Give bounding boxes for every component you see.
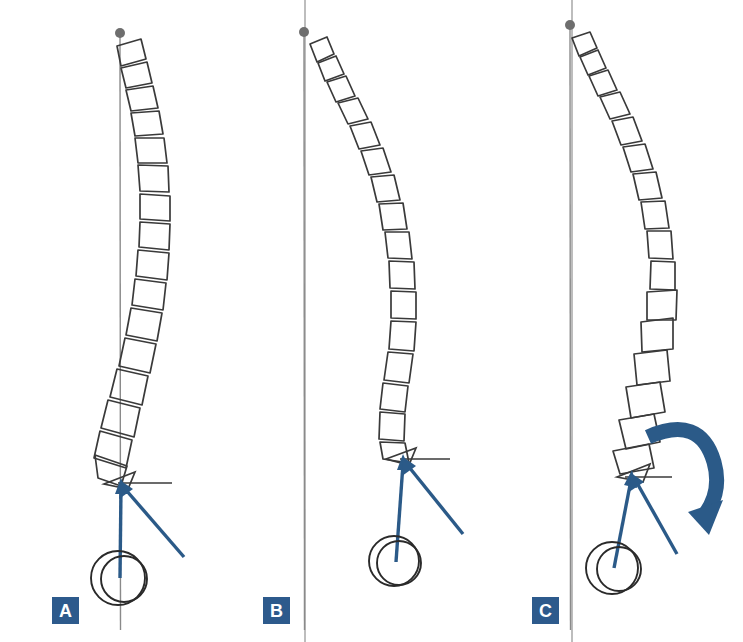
vertebra-a-8	[139, 222, 170, 250]
pelvic-incidence-arrow-a	[120, 488, 121, 578]
vertebra-a-7	[140, 194, 170, 221]
vertebra-c-4	[600, 92, 630, 119]
panel-label-b: B	[263, 597, 290, 624]
vertebra-b-13	[384, 352, 413, 383]
sacral-slope-arrow-a	[126, 490, 184, 557]
plumb-dot-c	[565, 20, 575, 30]
vertebra-a-2	[121, 62, 152, 88]
vertebra-b-12	[389, 321, 416, 351]
panel-a	[91, 28, 184, 630]
vertebra-c-11	[647, 290, 677, 320]
vertebra-b-9	[385, 232, 412, 259]
vertebra-a-13	[110, 369, 148, 405]
vertebra-a-15	[94, 431, 132, 468]
plumb-dot-b	[299, 27, 309, 37]
panel-c	[565, 20, 723, 630]
vertebra-a-5	[135, 138, 167, 163]
femoral-head-c	[586, 542, 641, 594]
vertebra-c-10	[650, 261, 675, 290]
vertebra-a-4	[131, 111, 163, 136]
vertebra-b-8	[379, 203, 407, 230]
panel-dividers	[305, 0, 572, 642]
panel-b	[299, 27, 463, 630]
femoral-head-a-inner	[101, 556, 147, 602]
vertebral-column-a	[94, 39, 170, 486]
plumb-dot-a	[115, 28, 125, 38]
vertebra-c-9	[647, 231, 673, 259]
plumb-line-b-stem	[304, 36, 305, 630]
vertebra-c-3	[589, 70, 617, 96]
femoral-head-b-inner	[377, 541, 421, 585]
vertebra-a-6	[138, 165, 169, 192]
sacral-slope-arrow-c	[637, 483, 677, 554]
figure-root: A B C	[0, 0, 743, 642]
vertebra-c-14	[626, 382, 665, 418]
vertebra-c-8	[641, 201, 669, 229]
vertebra-a-11	[126, 308, 162, 341]
vertebra-b-14	[380, 383, 408, 412]
pelvic-incidence-arrow-c	[614, 480, 631, 568]
vertebra-b-4	[338, 98, 368, 124]
vertebra-c-6	[623, 144, 653, 172]
vertebra-c-13	[634, 350, 670, 385]
measurement-arrows-c	[614, 470, 677, 568]
vertebra-a-9	[136, 250, 169, 280]
vertebra-b-5	[350, 122, 380, 149]
measurement-arrows-a	[115, 478, 184, 578]
vertebra-b-15	[379, 412, 405, 441]
femoral-head-c-inner	[597, 547, 641, 591]
vertebra-b-3	[327, 76, 355, 102]
vertebra-b-6	[361, 148, 391, 175]
vertebral-column-c	[572, 32, 677, 474]
vertebra-a-3	[126, 86, 158, 111]
panel-label-c: C	[532, 597, 559, 624]
vertebra-b-11	[391, 291, 416, 319]
measurement-arrows-b	[396, 454, 463, 562]
sacral-slope-arrow-b	[409, 467, 463, 534]
plumb-line-c	[565, 20, 575, 630]
vertebral-column-b	[310, 37, 416, 463]
vertebra-b-7	[371, 175, 400, 202]
vertebra-c-7	[633, 172, 662, 200]
spine-diagram-canvas	[0, 0, 743, 642]
vertebra-b-10	[389, 261, 415, 289]
vertebra-c-12	[641, 318, 673, 352]
plumb-line-b	[299, 27, 309, 630]
vertebra-c-5	[612, 117, 642, 145]
panel-label-a: A	[52, 597, 79, 624]
vertebra-a-10	[132, 279, 166, 310]
vertebra-a-12	[119, 338, 156, 373]
pelvic-incidence-arrow-b	[396, 464, 403, 562]
vertebra-a-1	[117, 39, 146, 66]
plumb-line-c-stem	[570, 29, 571, 630]
